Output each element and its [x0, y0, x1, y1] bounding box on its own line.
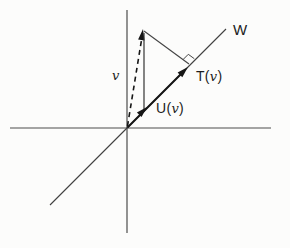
label-w: W — [233, 22, 247, 37]
label-u-name: U — [156, 100, 166, 116]
label-t-name: T — [196, 68, 205, 84]
label-t-paren-close: ) — [217, 68, 222, 84]
vector-projection-figure: W v T(v) U(v) — [0, 0, 290, 248]
perpendicular-segment — [144, 31, 189, 64]
label-u-of-v: U(v) — [156, 101, 184, 115]
label-t-of-v: T(v) — [196, 69, 222, 83]
right-angle-marker-icon — [183, 54, 194, 59]
label-u-paren-close: ) — [179, 100, 184, 116]
label-u-arg: v — [171, 101, 179, 116]
label-v: v — [112, 69, 120, 82]
